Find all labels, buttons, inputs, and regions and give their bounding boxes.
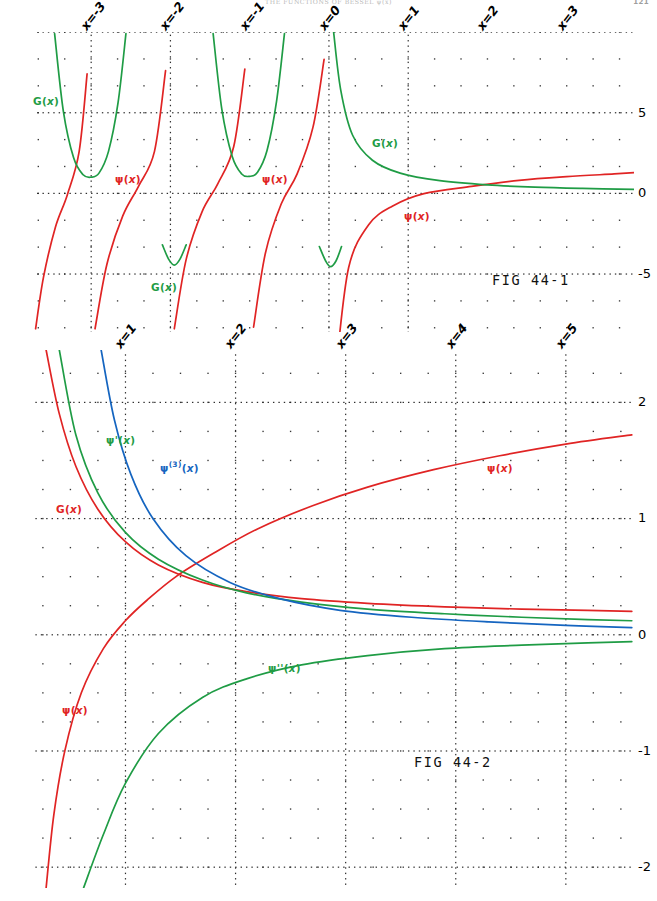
curve-psi''(x) [84, 642, 632, 888]
curve-annotation: ψ(x) [62, 704, 88, 716]
curve-annotation: ψ(x) [487, 462, 513, 474]
curve-annotation: ψ''(x) [268, 662, 301, 674]
x-tick-label-1: x=1 [112, 321, 140, 351]
figure-44-2: x=1x=2x=3x=4x=5210-1-2ψ'(x)ψ(3)(x)G(x)ψ(… [0, 0, 657, 901]
figure-44-2-plot-area [34, 350, 634, 888]
y-tick-label-0: 0 [638, 627, 646, 642]
figure-44-2-canvas [34, 350, 634, 888]
curves [46, 350, 632, 888]
figure-44-2-caption: FIG 44-2 [414, 754, 492, 770]
y-tick-label-1: 1 [638, 510, 646, 525]
curve-psi'(x) [59, 350, 631, 621]
x-tick-label-3: x=3 [332, 321, 360, 351]
page-root: THE FUNCTIONS OF BESSEL ψ(x) 121 x=-3x=-… [0, 0, 657, 901]
y-tick-label-neg2: -2 [638, 859, 651, 874]
x-tick-label-4: x=4 [442, 321, 470, 351]
x-tick-label-5: x=5 [552, 321, 580, 351]
x-tick-label-2: x=2 [222, 321, 250, 351]
curve-annotation: ψ'(x) [106, 434, 135, 446]
curve-psi(x) [46, 435, 632, 888]
y-tick-label-2: 2 [638, 394, 646, 409]
curve-annotation: G(x) [56, 503, 82, 515]
curve-annotation: ψ(3)(x) [160, 460, 199, 474]
y-tick-label-neg1: -1 [638, 743, 651, 758]
